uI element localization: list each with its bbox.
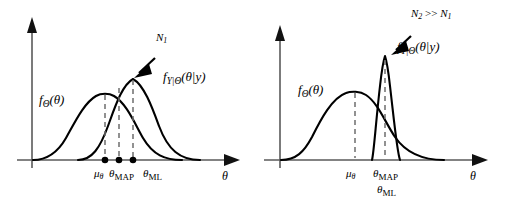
dot-theta-map-left xyxy=(116,157,123,164)
annotation-n1: N1 xyxy=(156,32,167,45)
x-axis-arrowhead-left xyxy=(224,154,240,166)
tick-label-theta-map-right: θMAP xyxy=(373,168,398,182)
tick-label-theta-ml-right: θML xyxy=(377,184,396,198)
x-axis-label-right: θ xyxy=(470,170,476,182)
x-axis-arrowhead-right xyxy=(472,154,488,166)
prior-label-left: fΘ(θ) xyxy=(39,93,64,109)
x-axis-label-left: θ xyxy=(222,170,228,182)
annotation-n2: N2 >> N1 xyxy=(411,8,452,21)
tick-label-theta-ml-left: θML xyxy=(143,168,162,182)
tick-label-mu-theta-right: μθ xyxy=(346,168,355,181)
prior-curve-right xyxy=(281,92,444,160)
pointer-head-n1 xyxy=(134,64,152,78)
tick-label-theta-map-left: θMAP xyxy=(109,168,134,182)
bayesian-estimation-figure: N1 fΘ(θ) fY|Θ(θ|y) μθ θMAP θML θ xyxy=(0,0,508,198)
y-axis-arrowhead-left xyxy=(27,17,37,33)
tick-label-mu-theta-left: μθ xyxy=(94,168,103,181)
y-axis-arrowhead-right xyxy=(275,25,285,41)
prior-label-right: fΘ(θ) xyxy=(298,83,323,99)
dot-theta-ml-left xyxy=(130,157,137,164)
posterior-label-right: fY|Θ(θ|y) xyxy=(397,40,440,56)
panel-small-sample: N1 fΘ(θ) fY|Θ(θ|y) μθ θMAP θML θ xyxy=(0,0,254,198)
posterior-label-left: fY|Θ(θ|y) xyxy=(163,70,206,86)
posterior-curve-left xyxy=(78,79,200,160)
panel-large-sample: N2 >> N1 fΘ(θ) fY|Θ(θ|y) μθ θMAP θML θ xyxy=(254,0,508,198)
posterior-curve-right xyxy=(372,56,400,160)
dot-mu-theta-left xyxy=(102,157,109,164)
